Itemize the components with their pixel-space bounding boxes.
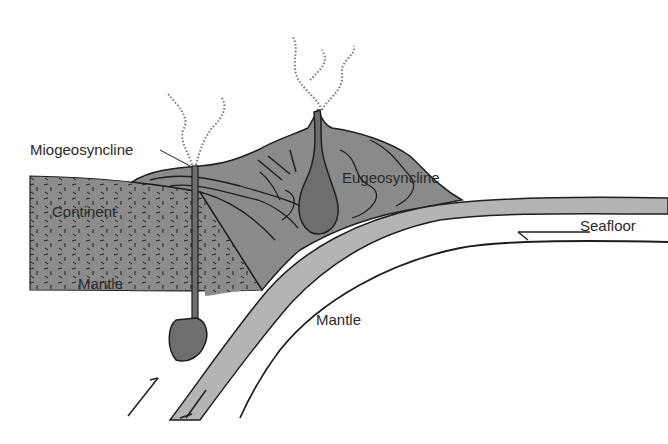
- magma-chamber-left: [169, 318, 207, 361]
- label-mantle-right: Mantle: [316, 312, 361, 327]
- label-mantle-left: Mantle: [78, 276, 123, 291]
- label-seafloor: Seafloor: [580, 218, 636, 233]
- label-eugeosyncline: Eugeosyncline: [342, 170, 440, 185]
- diagram-canvas: [0, 0, 668, 444]
- label-continent: Continent: [52, 204, 116, 219]
- magma-conduit-left: [192, 166, 198, 320]
- geosyncline-diagram: Miogeosyncline Eugeosyncline Continent M…: [0, 0, 668, 444]
- miogeosyncline-leader: [160, 150, 190, 166]
- label-miogeosyncline: Miogeosyncline: [30, 142, 133, 157]
